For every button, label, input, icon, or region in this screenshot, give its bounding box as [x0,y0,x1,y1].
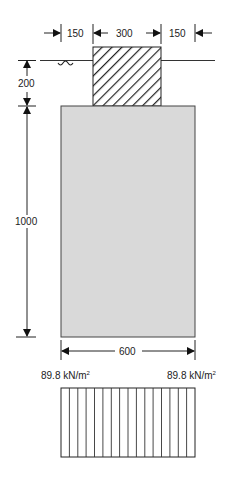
dim-label-footing-depth: 1000 [15,216,37,227]
dim-label-footing-width: 600 [119,346,136,357]
footing-section [61,106,195,337]
pressure-left-value: 89.8 kN/m [41,370,87,381]
column-section [93,47,161,106]
dim-label-depth-to-footing: 200 [18,78,35,89]
pressure-label-right: 89.8 kN/m2 [167,368,216,381]
pressure-left-exp: 2 [87,370,90,376]
left-dimension [16,61,36,338]
dim-label-left-offset: 150 [67,28,84,39]
dim-label-right-offset: 150 [169,28,186,39]
wave-icon [58,61,73,65]
pressure-right-value: 89.8 kN/m [167,370,213,381]
pressure-label-left: 89.8 kN/m2 [41,368,90,381]
pressure-right-exp: 2 [213,370,216,376]
pressure-diagram [61,388,195,457]
dim-label-column-width: 300 [116,28,133,39]
footing-diagram [0,0,229,482]
